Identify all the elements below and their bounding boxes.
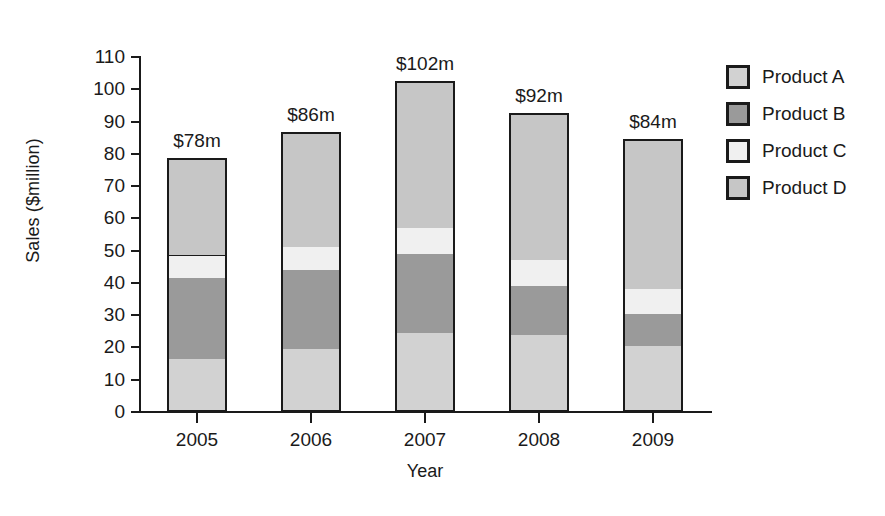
bar-group[interactable]: $92m [509,57,569,412]
bar-group[interactable]: $84m [623,57,683,412]
bar-group[interactable]: $86m [281,57,341,412]
stacked-bar-chart: Sales ($million) 11010090807060504030201… [0,0,885,516]
y-axis-tick: 10 [131,379,140,381]
y-axis-tick-label: 10 [104,369,125,391]
x-axis-tick-label-2006: 2006 [290,429,332,451]
legend-item-product-c[interactable]: Product C [726,132,846,169]
y-axis-tick-label: 40 [104,272,125,294]
y-axis-tick-label: 100 [93,78,125,100]
bar-group[interactable]: $102m [395,57,455,412]
y-axis-tick-label: 90 [104,111,125,133]
bar-segment-product-d[interactable] [281,132,341,247]
y-axis-tick: 90 [131,121,140,123]
bar-total-label: $84m [629,111,677,133]
x-axis-tick-label-2009: 2009 [632,429,674,451]
bar-total-label: $78m [173,130,221,152]
y-axis-tick: 70 [131,185,140,187]
x-axis-tick [538,413,540,423]
bar-segment-product-d[interactable] [623,139,683,289]
bar-segment-product-a[interactable] [509,333,569,412]
bar-total-label: $86m [287,104,335,126]
bar-segment-product-a[interactable] [167,357,227,412]
chart-legend: Product AProduct BProduct CProduct D [726,58,846,206]
bar-segment-product-a[interactable] [623,344,683,412]
x-axis-tick-label-2005: 2005 [176,429,218,451]
bar-segment-product-c[interactable] [281,245,341,270]
bar-segment-product-b[interactable] [167,276,227,359]
y-axis-tick-label: 110 [95,46,125,68]
x-axis-tick-label-2008: 2008 [518,429,560,451]
y-axis-tick: 100 [131,88,140,90]
legend-swatch-icon [726,139,750,163]
y-axis-tick-label: 50 [104,240,125,262]
y-axis-tick: 20 [131,346,140,348]
legend-label: Product D [762,177,846,199]
bar-segment-product-c[interactable] [623,287,683,313]
x-axis-tick [310,413,312,423]
legend-swatch-icon [726,65,750,89]
x-axis-tick [196,413,198,423]
y-axis-tick: 0 [131,411,140,413]
bar-segment-product-c[interactable] [395,226,455,254]
bar-segment-product-d[interactable] [509,113,569,260]
bar-segment-product-b[interactable] [623,312,683,346]
legend-item-product-a[interactable]: Product A [726,58,846,95]
y-axis-tick: 30 [131,314,140,316]
y-axis-tick: 110 [131,56,140,58]
legend-label: Product B [762,103,845,125]
bar-total-label: $102m [396,53,454,75]
y-axis-tick: 80 [131,153,140,155]
bar-segment-product-b[interactable] [281,268,341,349]
y-axis-tick: 40 [131,282,140,284]
bar-segment-product-a[interactable] [281,347,341,412]
x-axis-tick-label-2007: 2007 [404,429,446,451]
legend-swatch-icon [726,102,750,126]
bar-segment-product-a[interactable] [395,331,455,412]
legend-item-product-d[interactable]: Product D [726,169,846,206]
y-axis-tick: 60 [131,217,140,219]
bar-segment-product-d[interactable] [395,81,455,228]
bar-segment-product-b[interactable] [509,284,569,334]
bar-segment-product-c[interactable] [509,258,569,286]
bar-group[interactable]: $78m [167,57,227,412]
y-axis-title: Sales ($million) [23,106,44,296]
y-axis-tick: 50 [131,250,140,252]
y-axis-tick-label: 20 [104,336,125,358]
bar-segment-product-d[interactable] [167,158,227,255]
y-axis-tick-label: 0 [114,401,125,423]
bar-total-label: $92m [515,85,563,107]
legend-label: Product A [762,66,844,88]
bar-segment-product-c[interactable] [167,254,227,279]
y-axis-tick-label: 60 [104,207,125,229]
bar-segment-product-b[interactable] [395,252,455,333]
y-axis-tick-label: 80 [104,143,125,165]
x-axis-title: Year [140,461,710,482]
legend-item-product-b[interactable]: Product B [726,95,846,132]
y-axis-tick-label: 30 [104,304,125,326]
y-axis-tick-label: 70 [104,175,125,197]
x-axis-tick [424,413,426,423]
plot-area: 1101009080706050403020100$78m$86m$102m$9… [140,57,710,412]
legend-swatch-icon [726,176,750,200]
legend-label: Product C [762,140,846,162]
x-axis-tick [652,413,654,423]
